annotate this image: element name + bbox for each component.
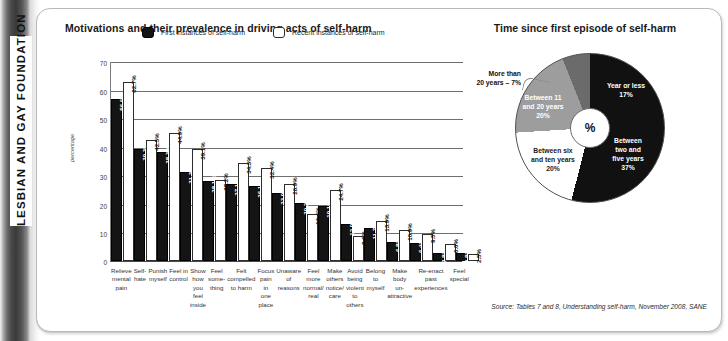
bar-group: 6.4%9.5% (410, 61, 433, 261)
page-card: Motivations and their prevalence in driv… (36, 8, 722, 332)
bar-group: 2.8%6.0% (433, 61, 456, 261)
x-axis-label: Focuspain inone place (256, 267, 275, 309)
bar-first-instances: 39.3% (134, 149, 145, 261)
y-axis-tick: 10 (100, 231, 107, 238)
bar-first-instances: 20.2% (295, 203, 306, 261)
bar-first-instances: 26.1% (249, 186, 260, 261)
legend-label-recent: Recent instances of self-harm (292, 29, 385, 36)
bar-first-instances: 19.1% (318, 206, 329, 261)
bar-recent-instances: 13.9% (376, 221, 387, 261)
x-axis-label: Self-hate (133, 267, 148, 309)
bar-group: 39.3%42.5% (134, 61, 157, 261)
x-axis-label: Feelmorenormal/real (302, 267, 325, 309)
y-axis-title: percentage (69, 134, 75, 162)
bar-group: 28.1%28.2% (203, 61, 226, 261)
bar-first-instances: 11.7% (364, 228, 375, 261)
bar-value-label: 12.9% (347, 218, 356, 236)
bar-group: 11.7%13.9% (364, 61, 387, 261)
bar-chart-legend: First instances of self-harm Recent inst… (142, 27, 385, 38)
bar-groups: 56.6%62.7%39.3%42.5%38.3%44.9%31.3%39.1%… (111, 61, 463, 261)
bar-first-instances: 6.4% (410, 243, 421, 261)
bar-first-instances: 28.1% (203, 181, 214, 261)
y-axis-tick: 20 (100, 202, 107, 209)
bar-first-instances: 23.9% (272, 193, 283, 261)
y-axis-tick: 60 (100, 88, 107, 95)
pie-circle: % (515, 53, 665, 203)
bar-group: 27.1%34.3% (226, 61, 249, 261)
page-root: LESBIAN AND GAY FOUNDATION Motivations a… (0, 0, 728, 341)
legend-swatch-recent (273, 27, 285, 38)
pie-chart: % Year or less 17% Between two and five … (467, 41, 707, 251)
bar-first-instances: 56.6% (111, 99, 122, 261)
bar-plot-area: 706050403020100 56.6%62.7%39.3%42.5%38.3… (110, 62, 462, 262)
x-axis-label: Show howyou feelinside (189, 267, 207, 309)
pie-slice-label-eleven-to-20: Between 11 and 20 years 20% (511, 93, 575, 120)
x-axis-label: Feel incontrol (168, 267, 189, 309)
x-axis-label: Unawareofreasons (275, 267, 302, 309)
y-axis-tick: 0 (103, 259, 107, 266)
bar-first-instances: 38.3% (157, 152, 168, 261)
pie-slice-label-year-or-less: Year or less 17% (595, 81, 657, 99)
bar-group: 23.9%26.9% (272, 61, 295, 261)
bar-first-instances: 12.9% (341, 224, 352, 261)
y-axis-tick: 70 (100, 60, 107, 67)
bar-first-instances: 31.3% (180, 172, 191, 261)
y-axis-tick: 50 (100, 117, 107, 124)
bar-chart: percentage 706050403020100 56.6%62.7%39.… (67, 49, 471, 319)
bar-group: 6.8%10.9% (387, 61, 410, 261)
bar-group: 26.1%32.4% (249, 61, 272, 261)
bar-recent-instances: 10.9% (399, 230, 410, 261)
pie-slice-label-two-to-five: Between two and five years 37% (599, 136, 657, 172)
y-axis-tick: 30 (100, 174, 107, 181)
legend-label-first: First instances of self-harm (161, 29, 245, 36)
pie-chart-title: Time since first episode of self-harm (467, 22, 703, 34)
bar-recent-instances: 6.0% (445, 244, 456, 261)
bar-recent-instances: 26.9% (284, 184, 295, 261)
bar-recent-instances: 34.3% (238, 163, 249, 261)
legend-swatch-first (142, 27, 154, 38)
bar-recent-instances: 42.5% (146, 140, 157, 261)
bar-recent-instances: 28.2% (215, 180, 226, 261)
x-axis-label: Feltcompelledto harm (226, 267, 256, 309)
bar-recent-instances: 24.7% (330, 190, 341, 261)
bar-group: 38.3%44.9% (157, 61, 180, 261)
bar-first-instances: 27.1% (226, 184, 237, 261)
bar-recent-instances: 8.6% (353, 236, 364, 261)
bar-group: 56.6%62.7% (111, 61, 134, 261)
bar-value-label: 20.2% (301, 198, 310, 216)
bar-recent-instances: 39.1% (192, 149, 203, 261)
bar-group: 12.9%8.6% (341, 61, 364, 261)
publisher-vertical-label: LESBIAN AND GAY FOUNDATION (10, 36, 32, 226)
bar-recent-instances: 16.4% (307, 214, 318, 261)
bar-recent-instances: 9.5% (422, 234, 433, 261)
pie-slice-label-six-to-ten: Between six and ten years 20% (515, 146, 591, 173)
x-axis-label: Punishmyself (147, 267, 168, 309)
bar-recent-instances: 32.4% (261, 168, 272, 261)
y-axis-tick: 40 (100, 145, 107, 152)
x-axis-label: Relievementalpain (110, 267, 133, 309)
bar-group: 19.1%24.7% (318, 61, 341, 261)
bar-recent-instances: 2.5% (468, 254, 479, 261)
pie-slice-label-more-than-20: More than 20 years – 7% (459, 69, 521, 87)
bar-group: 31.3%39.1% (180, 61, 203, 261)
bar-group: 20.2%16.4% (295, 61, 318, 261)
x-axis-label: Feelsome-thing (207, 267, 226, 309)
bar-first-instances: 6.8% (387, 242, 398, 261)
bar-recent-instances: 62.7% (123, 82, 134, 261)
source-note: Source: Tables 7 and 8, Understanding se… (337, 303, 707, 310)
bar-recent-instances: 44.9% (169, 133, 180, 261)
bar-first-instances: 2.8% (433, 253, 444, 261)
bar-first-instances: 2.8% (456, 253, 467, 261)
